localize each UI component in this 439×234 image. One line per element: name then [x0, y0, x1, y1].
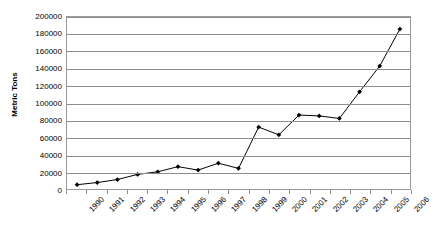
x-axis-tick-label: 1994 [169, 195, 188, 214]
x-axis-tick-label: 1996 [209, 195, 228, 214]
x-axis-tick-label: 1995 [189, 195, 208, 214]
data-point-marker [256, 125, 261, 130]
y-axis-tick-label: 200000 [12, 12, 62, 21]
gridline [67, 69, 410, 70]
gridline [67, 173, 410, 174]
data-point-marker [75, 182, 80, 187]
x-axis-tick [330, 190, 331, 194]
plot-area [66, 16, 411, 190]
x-axis-tick-label: 1992 [128, 195, 147, 214]
gridline [67, 51, 410, 52]
line-chart: Metric Tons 0200004000060000800001000001… [0, 0, 439, 234]
data-point-marker [176, 164, 181, 169]
y-axis-tick-label: 0 [12, 186, 62, 195]
x-axis-tick [188, 190, 189, 194]
x-axis-tick-label: 2005 [392, 195, 411, 214]
data-point-marker [236, 166, 241, 171]
x-axis-tick-label: 2004 [371, 195, 390, 214]
gridline [67, 86, 410, 87]
y-axis-tick-label: 120000 [12, 81, 62, 90]
x-axis-tick [350, 190, 351, 194]
y-axis-tick-label: 20000 [12, 168, 62, 177]
x-axis-tick-label: 1991 [108, 195, 127, 214]
gridline [67, 34, 410, 35]
x-axis-tick [269, 190, 270, 194]
x-axis-tick [289, 190, 290, 194]
data-point-marker [196, 168, 201, 173]
x-axis-tick [208, 190, 209, 194]
y-axis-tick-labels: 0200004000060000800001000001200001400001… [12, 0, 62, 234]
gridline [67, 156, 410, 157]
x-axis-tick-label: 1990 [87, 195, 106, 214]
x-axis-tick [147, 190, 148, 194]
x-axis-tick [411, 190, 412, 194]
x-axis-tick-label: 1993 [148, 195, 167, 214]
x-axis-tick [391, 190, 392, 194]
x-axis-tick [310, 190, 311, 194]
x-axis-tick-label: 1998 [250, 195, 269, 214]
x-axis-tick [370, 190, 371, 194]
x-axis-tick [249, 190, 250, 194]
data-point-marker [398, 27, 403, 32]
y-axis-tick-label: 180000 [12, 29, 62, 38]
data-point-marker [95, 180, 100, 185]
x-axis-tick-label: 2006 [412, 195, 431, 214]
x-axis-tick-label: 2001 [311, 195, 330, 214]
x-axis-tick-label: 2002 [331, 195, 350, 214]
gridline [67, 17, 410, 18]
x-axis-tick-label: 2000 [290, 195, 309, 214]
y-axis-tick-label: 160000 [12, 46, 62, 55]
data-point-marker [115, 177, 120, 182]
x-axis-tick [86, 190, 87, 194]
gridline [67, 121, 410, 122]
x-axis-tick [228, 190, 229, 194]
y-axis-tick-label: 80000 [12, 116, 62, 125]
x-axis-tick [107, 190, 108, 194]
data-point-marker [317, 114, 322, 119]
y-axis-tick-label: 100000 [12, 99, 62, 108]
y-axis-tick-label: 140000 [12, 64, 62, 73]
x-axis-tick [127, 190, 128, 194]
x-axis-tick [66, 190, 67, 194]
series-line [77, 29, 400, 185]
y-axis-tick-label: 40000 [12, 151, 62, 160]
x-axis-tick [167, 190, 168, 194]
x-axis-tick-labels: 1990199119921993199419951996199719981999… [66, 195, 411, 234]
y-axis-tick-label: 60000 [12, 133, 62, 142]
x-axis-tick-label: 2003 [351, 195, 370, 214]
x-axis-tick-label: 1999 [270, 195, 289, 214]
gridline [67, 138, 410, 139]
gridline [67, 104, 410, 105]
data-point-marker [216, 161, 221, 166]
x-axis-tick-label: 1997 [229, 195, 248, 214]
